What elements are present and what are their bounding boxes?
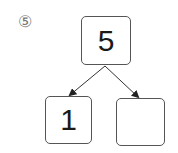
top-value: 5: [98, 24, 115, 58]
left-value: 1: [60, 103, 77, 137]
right-box-blank[interactable]: [116, 98, 165, 146]
left-box: 1: [45, 96, 92, 144]
problem-number-label: ⑤: [16, 13, 34, 31]
arrow-left: [70, 66, 105, 95]
arrow-right: [105, 66, 138, 97]
top-box: 5: [81, 16, 131, 65]
